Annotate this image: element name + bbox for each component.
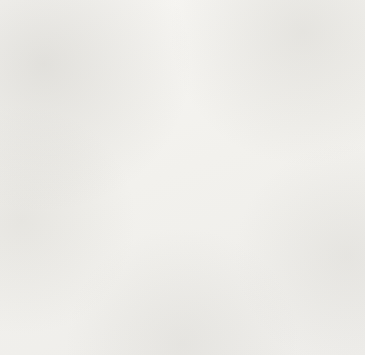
grid-cell[interactable] (45, 10, 59, 24)
grid-panel-3[interactable]: .64 (0, 178, 182, 355)
grid-cell[interactable] (114, 134, 128, 148)
grid-cell[interactable] (141, 298, 155, 312)
grid-cell[interactable] (31, 120, 45, 134)
grid-cell[interactable] (271, 229, 285, 243)
grid-cell[interactable] (86, 216, 100, 230)
grid-cell[interactable] (31, 243, 45, 257)
grid-cell[interactable] (257, 38, 271, 52)
grid-cell[interactable] (141, 216, 155, 230)
grid-cell[interactable] (257, 312, 271, 326)
grid-cell[interactable] (31, 65, 45, 79)
grid-cell[interactable] (257, 79, 271, 93)
grid-cell[interactable] (243, 188, 257, 202)
grid-cell[interactable] (31, 202, 45, 216)
grid-cell[interactable] (86, 93, 100, 107)
grid-cell[interactable] (127, 271, 141, 285)
grid-cell[interactable] (45, 312, 59, 326)
grid-cell[interactable] (31, 107, 45, 121)
grid-cell[interactable] (271, 24, 285, 38)
grid-cell[interactable] (230, 298, 244, 312)
grid-cell[interactable] (202, 120, 216, 134)
grid-cell[interactable] (216, 312, 230, 326)
grid-cell[interactable] (114, 216, 128, 230)
grid-cell[interactable] (100, 51, 114, 65)
grid-cell[interactable] (271, 298, 285, 312)
grid-cell[interactable] (216, 257, 230, 271)
grid-cell[interactable] (141, 38, 155, 52)
grid-cell[interactable] (72, 312, 86, 326)
grid-cell[interactable] (299, 120, 313, 134)
grid-panel-4[interactable]: .98 (183, 178, 365, 355)
grid-cell[interactable] (202, 243, 216, 257)
grid-cell[interactable] (230, 257, 244, 271)
grid-cell[interactable] (285, 216, 299, 230)
grid-cell[interactable] (326, 65, 340, 79)
grid-cell[interactable] (17, 51, 31, 65)
grid-cell[interactable] (141, 120, 155, 134)
grid-cell[interactable] (17, 38, 31, 52)
grid-cell[interactable] (299, 188, 313, 202)
grid-cell[interactable] (230, 120, 244, 134)
grid-cell[interactable] (17, 134, 31, 148)
grid-cell[interactable] (326, 134, 340, 148)
grid-cell[interactable] (17, 65, 31, 79)
grid-cell[interactable] (72, 65, 86, 79)
grid-cell[interactable] (243, 38, 257, 52)
grid-cell[interactable] (58, 24, 72, 38)
grid-cell[interactable] (257, 285, 271, 299)
grid-cell[interactable] (312, 65, 326, 79)
grid-cell[interactable] (127, 298, 141, 312)
grid-cell[interactable] (312, 257, 326, 271)
grid-cell[interactable] (100, 107, 114, 121)
grid-cell[interactable] (326, 298, 340, 312)
grid-cell[interactable] (230, 271, 244, 285)
grid-cell[interactable] (114, 229, 128, 243)
grid-cell[interactable] (202, 271, 216, 285)
grid-cell[interactable] (100, 24, 114, 38)
grid-cell[interactable] (100, 65, 114, 79)
grid-cell[interactable] (285, 10, 299, 24)
grid-cell[interactable] (141, 202, 155, 216)
grid-cell[interactable] (100, 285, 114, 299)
grid-cell[interactable] (114, 51, 128, 65)
grid-cell[interactable] (312, 271, 326, 285)
grid-cell[interactable] (216, 38, 230, 52)
grid-cell[interactable] (141, 229, 155, 243)
grid-cell[interactable] (100, 243, 114, 257)
grid-cell[interactable] (299, 107, 313, 121)
grid-cell[interactable] (271, 216, 285, 230)
grid-panel-1[interactable]: .06 (0, 0, 182, 178)
grid-cell[interactable] (285, 202, 299, 216)
grid-cell[interactable] (100, 257, 114, 271)
grid-cell[interactable] (202, 10, 216, 24)
grid-cell[interactable] (114, 243, 128, 257)
grid-cell[interactable] (285, 312, 299, 326)
grid-cell[interactable] (58, 38, 72, 52)
grid-cell[interactable] (299, 257, 313, 271)
grid-cell[interactable] (72, 24, 86, 38)
grid-cell[interactable] (216, 65, 230, 79)
grid-cell[interactable] (202, 65, 216, 79)
grid-cell[interactable] (312, 202, 326, 216)
grid-cell[interactable] (299, 285, 313, 299)
grid-cell[interactable] (31, 216, 45, 230)
grid-cell[interactable] (243, 216, 257, 230)
grid-cell[interactable] (271, 65, 285, 79)
grid-cell[interactable] (230, 229, 244, 243)
grid-cell[interactable] (285, 134, 299, 148)
grid-cell[interactable] (127, 312, 141, 326)
grid-cell[interactable] (58, 134, 72, 148)
grid-cell[interactable] (257, 188, 271, 202)
grid-cell[interactable] (100, 120, 114, 134)
grid-cell[interactable] (285, 298, 299, 312)
grid-cell[interactable] (45, 120, 59, 134)
grid-cell[interactable] (72, 134, 86, 148)
grid-cell[interactable] (45, 65, 59, 79)
grid-cell[interactable] (230, 188, 244, 202)
hundred-grid-1[interactable] (16, 9, 156, 149)
grid-cell[interactable] (243, 107, 257, 121)
grid-cell[interactable] (216, 243, 230, 257)
grid-cell[interactable] (86, 257, 100, 271)
grid-cell[interactable] (100, 298, 114, 312)
grid-cell[interactable] (299, 243, 313, 257)
